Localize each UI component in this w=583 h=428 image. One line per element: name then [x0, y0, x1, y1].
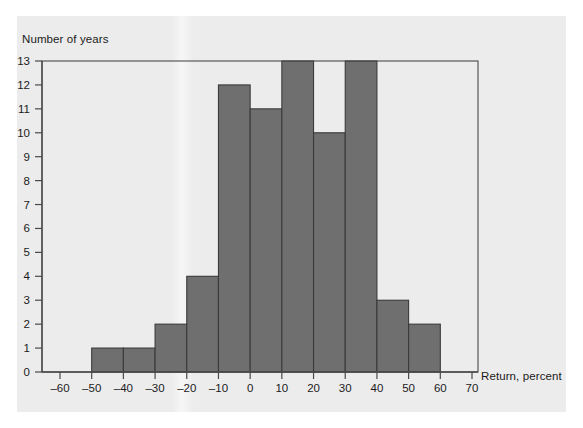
x-axis-tick-label: 0: [247, 382, 253, 394]
y-axis-tick-label: 1: [24, 342, 30, 354]
y-axis-tick-label: 11: [18, 103, 30, 115]
histogram-bar: [187, 276, 219, 372]
x-axis-tick-label: 10: [275, 382, 288, 394]
x-axis-tick-label: –30: [145, 382, 164, 394]
y-axis-tick-label: 4: [24, 270, 31, 282]
figure-canvas: Number of years Return, percent 01234567…: [0, 0, 583, 428]
histogram-bar: [409, 324, 441, 372]
histogram-bar: [377, 300, 409, 372]
x-axis-tick-label: –40: [114, 382, 133, 394]
x-axis-tick-label: 40: [371, 382, 384, 394]
x-axis-tick-label: –10: [209, 382, 228, 394]
histogram-bar: [345, 61, 377, 372]
y-axis-tick-label: 5: [24, 246, 30, 258]
bars-group: [92, 61, 441, 372]
histogram-bar: [123, 348, 155, 372]
x-axis-tick-label: –60: [50, 382, 69, 394]
x-axis-tick-label: –50: [82, 382, 101, 394]
histogram-bar: [155, 324, 187, 372]
x-axis-tick-label: 30: [339, 382, 352, 394]
y-axis-tick-label: 12: [17, 79, 30, 91]
y-axis-tick-label: 10: [17, 127, 30, 139]
histogram-bar: [218, 85, 250, 372]
histogram-bar: [92, 348, 124, 372]
y-axis-tick-label: 3: [24, 294, 30, 306]
histogram-bar: [282, 61, 314, 372]
x-axis-tick-label: 50: [402, 382, 415, 394]
y-axis-tick-label: 0: [24, 366, 30, 378]
histogram-bar: [314, 133, 346, 372]
x-axis-tick-label: 60: [434, 382, 447, 394]
histogram-bar: [250, 109, 282, 372]
y-axis-tick-label: 2: [24, 318, 30, 330]
y-axis-tick-label: 13: [17, 55, 30, 67]
x-axis-tick-label: 20: [307, 382, 320, 394]
y-axis-tick-label: 7: [24, 199, 30, 211]
x-axis-tick-label: 70: [466, 382, 479, 394]
histogram-plot: 012345678910111213–60–50–40–30–20–100102…: [0, 0, 583, 428]
y-axis-tick-label: 9: [24, 151, 30, 163]
x-axis-tick-label: –20: [177, 382, 196, 394]
y-axis-tick-label: 8: [24, 175, 30, 187]
y-axis-tick-label: 6: [24, 222, 30, 234]
